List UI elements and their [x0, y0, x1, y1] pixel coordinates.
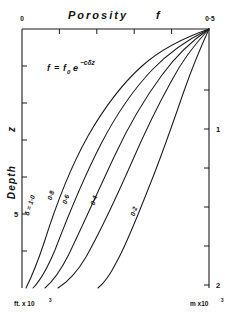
right-unit-text: m x10	[190, 300, 209, 307]
curve-label-delta-1-0: δ = 1·0	[23, 194, 36, 216]
right-unit-label: m x10 3	[190, 298, 224, 307]
curve-delta-0-6	[45, 29, 209, 288]
curve-label-delta-0-8: 0·8	[46, 189, 56, 200]
equation-annotation: f = f 0 e −cδz	[47, 59, 95, 75]
left-axis-ticks	[22, 66, 27, 251]
curve-label-delta-0-2: 0·2	[129, 205, 139, 216]
right-axis-tick-label-1: 1	[216, 125, 220, 134]
curve-delta-0-4	[58, 29, 209, 288]
chart-title-quantity: Porosity	[68, 9, 128, 21]
x-axis-min-label: 0	[20, 15, 24, 22]
equation-exponent: −cδz	[80, 59, 95, 66]
equation-equals: =	[54, 63, 60, 73]
x-axis-max-label: 0·5	[205, 15, 215, 22]
right-axis-ticks	[204, 90, 209, 285]
left-unit-exponent: 3	[49, 298, 52, 303]
left-unit-text: ft. x 10	[14, 300, 35, 307]
right-unit-exponent: 3	[221, 298, 224, 303]
y-axis-name: Depth	[6, 165, 17, 199]
x-axis-ticks	[59, 29, 171, 34]
left-axis-tick-label-5: 5	[14, 210, 18, 219]
equation-e-base: e	[73, 63, 78, 73]
y-axis-symbol: z	[6, 126, 17, 133]
porosity-depth-figure: Porosity f 0 0·5 5	[0, 0, 241, 321]
chart-title-symbol: f	[156, 9, 161, 21]
left-unit-label: ft. x 10 3	[14, 298, 52, 307]
curve-label-delta-0-6: 0·6	[61, 193, 71, 204]
equation-lhs: f	[47, 63, 51, 73]
chart-svg: Porosity f 0 0·5 5	[0, 0, 241, 321]
curve-delta-0-8	[33, 29, 209, 288]
curve-label-delta-0-4: 0·4	[89, 194, 99, 205]
right-axis-tick-label-2: 2	[216, 281, 220, 290]
equation-f0-subscript: 0	[67, 69, 71, 75]
